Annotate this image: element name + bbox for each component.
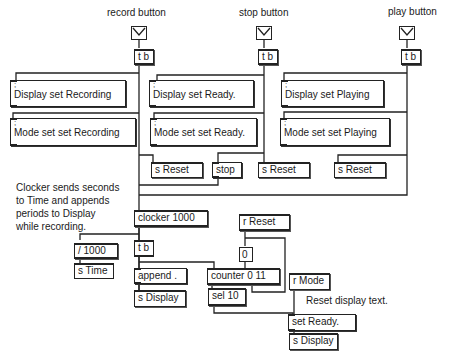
message-text: Display set Playing	[285, 89, 369, 100]
play-button-label: play button	[388, 6, 437, 18]
set-ready-message[interactable]: set Ready.	[288, 314, 356, 331]
counter-object[interactable]: counter 0 11	[207, 268, 280, 285]
reset-comment: Reset display text.	[306, 295, 388, 307]
message-mode-set-playing[interactable]: ; Mode set set Playing	[280, 118, 390, 146]
send-reset-1[interactable]: s Reset	[151, 162, 203, 178]
append-object[interactable]: append .	[134, 268, 187, 284]
send-display-1[interactable]: s Display	[134, 290, 186, 307]
message-text: set Ready.	[292, 316, 339, 327]
message-display-set-ready[interactable]: ; Display set Ready.	[149, 80, 254, 107]
message-text: Display set Recording	[14, 89, 111, 100]
message-mode-set-ready[interactable]: ; Mode set set Ready.	[150, 118, 257, 146]
divide-object[interactable]: / 1000	[74, 243, 118, 259]
send-display-2[interactable]: s Display	[289, 333, 338, 350]
message-text: append .	[138, 270, 177, 281]
record-button[interactable]	[131, 26, 147, 40]
bang-envelope-icon	[132, 27, 146, 39]
semicolon: ;	[154, 119, 254, 127]
bang-envelope-icon	[257, 27, 271, 39]
stop-button[interactable]	[256, 26, 272, 40]
message-text: stop	[216, 164, 235, 175]
trigger-play[interactable]: t b	[401, 49, 421, 65]
message-text: Mode set set Playing	[284, 127, 377, 138]
stop-message[interactable]: stop	[212, 162, 242, 178]
clocker-object[interactable]: clocker 1000	[134, 210, 208, 227]
select-object[interactable]: sel 10	[208, 288, 246, 306]
message-display-set-playing[interactable]: ; Display set Playing	[281, 80, 384, 107]
trigger-stop[interactable]: t b	[258, 49, 278, 65]
message-display-set-recording[interactable]: ; Display set Recording	[10, 80, 126, 107]
bang-envelope-icon	[400, 27, 414, 39]
trigger-clock[interactable]: t b	[134, 240, 154, 257]
send-time[interactable]: s Time	[74, 263, 114, 279]
semicolon: ;	[284, 119, 387, 127]
message-text: Display set Ready.	[153, 89, 236, 100]
message-text: Mode set set Ready.	[154, 127, 245, 138]
receive-mode[interactable]: r Mode	[289, 273, 330, 290]
clocker-comment: Clocker sends seconds to Time and append…	[16, 181, 119, 233]
play-button[interactable]	[399, 26, 415, 40]
stop-button-label: stop button	[239, 7, 288, 19]
semicolon: ;	[14, 81, 123, 89]
send-reset-2[interactable]: s Reset	[258, 162, 310, 178]
semicolon: ;	[153, 81, 251, 89]
semicolon: ;	[14, 119, 133, 127]
number-zero[interactable]: 0	[239, 247, 253, 262]
trigger-record[interactable]: t b	[134, 49, 154, 65]
message-mode-set-recording[interactable]: ; Mode set set Recording	[10, 118, 136, 146]
send-reset-3[interactable]: s Reset	[334, 162, 386, 178]
record-button-label: record button	[107, 7, 166, 19]
semicolon: ;	[285, 81, 381, 89]
message-text: Mode set set Recording	[14, 127, 120, 138]
receive-reset[interactable]: r Reset	[239, 214, 290, 231]
